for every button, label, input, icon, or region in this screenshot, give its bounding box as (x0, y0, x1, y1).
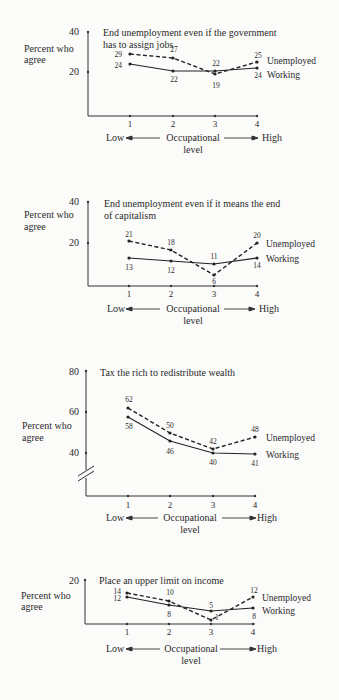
arrow-right-icon (222, 516, 256, 520)
x-axis-label: level (183, 144, 203, 155)
svg-text:4: 4 (251, 627, 256, 637)
y-axis-label: agree (22, 432, 44, 443)
svg-text:2: 2 (169, 289, 174, 299)
svg-text:11: 11 (210, 252, 217, 261)
x-high-label: High (257, 512, 277, 523)
x-axis-label: level (180, 524, 200, 535)
chart-title: Tax the rich to redistribute wealth (100, 367, 235, 378)
svg-text:10: 10 (166, 588, 174, 597)
svg-text:3: 3 (212, 289, 217, 299)
data-points (126, 406, 256, 455)
svg-text:21: 21 (125, 230, 133, 239)
svg-text:24: 24 (254, 71, 262, 80)
svg-text:42: 42 (209, 437, 217, 446)
svg-text:62: 62 (125, 395, 133, 404)
x-low-label: Low (106, 643, 125, 654)
svg-text:1: 1 (125, 627, 130, 637)
svg-text:58: 58 (125, 422, 133, 431)
svg-text:29: 29 (115, 50, 123, 59)
chart-assign-jobs: Percent who agree 40 20 End unemployment… (0, 0, 339, 175)
y-axis-label: agree (24, 54, 46, 65)
x-tick-labels: 1 2 3 4 (128, 119, 260, 129)
svg-text:8: 8 (167, 610, 171, 619)
svg-text:27: 27 (170, 45, 178, 54)
x-axis-label: level (183, 315, 203, 326)
chart-title: has to assign jobs (103, 39, 173, 50)
svg-text:50: 50 (166, 421, 174, 430)
svg-text:46: 46 (166, 447, 174, 456)
x-tick-labels: 1 2 3 4 (126, 500, 258, 510)
y-axis-label: agree (21, 601, 43, 612)
y-tick-label: 80 (69, 366, 79, 377)
data-labels: 14 10 1 12 12 8 5 8 (114, 586, 259, 622)
svg-text:24: 24 (115, 61, 123, 70)
svg-text:41: 41 (251, 459, 259, 468)
svg-text:13: 13 (125, 263, 133, 272)
legend-working: Working (266, 254, 299, 264)
svg-text:3: 3 (209, 627, 214, 637)
svg-text:14: 14 (253, 261, 261, 270)
svg-text:1: 1 (215, 613, 219, 622)
series-working-line (128, 417, 255, 454)
svg-text:2: 2 (167, 627, 172, 637)
x-high-label: High (257, 643, 277, 654)
series-unemployed-line (127, 593, 253, 620)
svg-text:48: 48 (251, 425, 259, 434)
legend-working: Working (267, 70, 300, 80)
y-tick-label: 20 (69, 237, 79, 248)
x-low-label: Low (107, 303, 126, 314)
x-axis-label: Occupational (166, 303, 220, 314)
svg-text:6: 6 (212, 277, 216, 286)
svg-text:40: 40 (209, 458, 217, 467)
svg-text:2: 2 (168, 500, 173, 510)
svg-text:20: 20 (253, 231, 261, 240)
svg-text:4: 4 (253, 500, 258, 510)
y-tick-label: 20 (69, 66, 79, 77)
y-tick-label: 40 (69, 26, 79, 37)
chart-upper-income-limit: Percent who agree 20 Place an upper limi… (0, 560, 339, 700)
legend-working: Working (266, 450, 299, 460)
arrow-left-icon (126, 647, 160, 651)
y-axis-label: Percent who (24, 43, 74, 54)
svg-text:25: 25 (254, 51, 262, 60)
x-low-label: Low (106, 132, 125, 143)
x-axis-label: level (181, 655, 201, 666)
y-tick-label: 60 (69, 406, 79, 417)
svg-text:12: 12 (167, 266, 175, 275)
svg-text:3: 3 (213, 119, 218, 129)
svg-text:3: 3 (211, 500, 216, 510)
x-axis-label: Occupational (164, 643, 218, 654)
legend-unemployed: Unemployed (262, 593, 311, 603)
chart-tax-the-rich: Percent who agree 80 60 40 Tax the rich … (0, 350, 339, 540)
svg-text:5: 5 (209, 601, 213, 610)
y-axis-label: Percent who (22, 420, 72, 431)
x-high-label: High (259, 303, 279, 314)
chart-title: End unemployment even if the government (103, 27, 277, 38)
svg-text:1: 1 (128, 119, 133, 129)
legend-working: Working (262, 606, 295, 616)
svg-text:22: 22 (212, 59, 220, 68)
x-high-label: High (262, 132, 282, 143)
legend-unemployed: Unemployed (267, 56, 316, 66)
series-working-line (127, 597, 253, 611)
x-axis-label: Occupational (166, 132, 220, 143)
data-labels: 62 50 42 48 58 46 40 41 (125, 395, 259, 468)
y-axis-label: Percent who (24, 209, 74, 220)
svg-text:1: 1 (127, 289, 132, 299)
x-low-label: Low (106, 512, 125, 523)
svg-text:12: 12 (250, 586, 258, 595)
y-axis-label: Percent who (21, 590, 71, 601)
arrow-left-icon (126, 307, 160, 311)
legend-unemployed: Unemployed (266, 239, 315, 249)
chart-title: Place an upper limit on income (99, 575, 224, 586)
svg-text:4: 4 (255, 289, 260, 299)
chart-title: End unemployment even if it means the en… (104, 198, 280, 209)
data-points (127, 239, 258, 276)
svg-text:19: 19 (212, 81, 220, 90)
arrow-left-icon (126, 516, 158, 520)
svg-text:18: 18 (167, 238, 175, 247)
y-tick-label: 40 (69, 196, 79, 207)
data-points (128, 52, 258, 75)
x-axis-label: Occupational (163, 512, 217, 523)
chart-end-capitalism: Percent who agree 40 20 End unemployment… (0, 180, 339, 345)
